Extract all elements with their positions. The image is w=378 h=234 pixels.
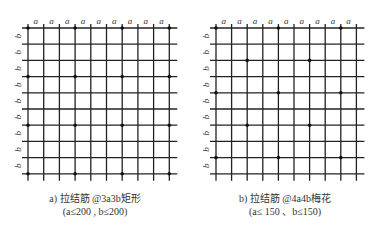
tie-bar-dot xyxy=(26,75,30,79)
tie-bar-dot xyxy=(26,172,30,176)
tie-bar-dot xyxy=(73,26,77,30)
tie-bar-dot xyxy=(277,26,281,30)
tie-bar-dot xyxy=(277,156,281,160)
caption-b-title: b) 拉结筋 @4a4b梅花 xyxy=(190,192,378,205)
tie-bar-dot xyxy=(339,91,343,95)
tie-bar-dot xyxy=(73,75,77,79)
tie-bar-dot xyxy=(308,59,312,63)
spacing-label-b: b xyxy=(201,33,211,38)
spacing-label-a: a xyxy=(315,16,320,26)
tie-bar-dot xyxy=(168,26,172,30)
spacing-label-a: a xyxy=(159,16,164,26)
spacing-label-b: b xyxy=(201,163,211,168)
spacing-label-a: a xyxy=(253,16,258,26)
caption-b-constraint: (a≤ 150 、b≤150) xyxy=(190,205,378,218)
spacing-label-a: a xyxy=(49,16,54,26)
spacing-label-b: b xyxy=(201,66,211,71)
spacing-label-a: a xyxy=(222,16,227,26)
caption-a: a) 拉结筋 @3a3b矩形 (a≤200 , b≤200) xyxy=(0,192,190,218)
tie-bar-dot xyxy=(120,26,124,30)
caption-a-constraint: (a≤200 , b≤200) xyxy=(0,205,190,218)
spacing-label-b: b xyxy=(13,98,23,103)
spacing-label-b: b xyxy=(13,114,23,119)
tie-bar-dot xyxy=(120,172,124,176)
spacing-label-a: a xyxy=(346,16,351,26)
tie-bar-dot xyxy=(73,172,77,176)
spacing-label-b: b xyxy=(13,82,23,87)
spacing-label-b: b xyxy=(201,82,211,87)
spacing-label-b: b xyxy=(13,50,23,55)
tie-bar-dot xyxy=(214,26,218,30)
caption-a-title: a) 拉结筋 @3a3b矩形 xyxy=(0,192,190,205)
spacing-label-a: a xyxy=(128,16,133,26)
tie-bar-dot xyxy=(339,156,343,160)
tie-bar-dot xyxy=(214,156,218,160)
spacing-label-b: b xyxy=(201,147,211,152)
tie-bar-dot xyxy=(26,123,30,127)
spacing-label-b: b xyxy=(201,50,211,55)
spacing-label-a: a xyxy=(331,16,336,26)
spacing-label-a: a xyxy=(65,16,70,26)
spacing-label-a: a xyxy=(112,16,117,26)
tie-bar-dot xyxy=(245,123,249,127)
spacing-label-a: a xyxy=(96,16,101,26)
grid-b: aaaaaaaaabbbbbbbbb xyxy=(201,16,364,181)
spacing-label-b: b xyxy=(13,147,23,152)
spacing-label-a: a xyxy=(144,16,149,26)
spacing-label-a: a xyxy=(268,16,273,26)
tie-bar-dot xyxy=(245,59,249,63)
tie-bar-dot xyxy=(168,123,172,127)
spacing-label-a: a xyxy=(81,16,86,26)
spacing-label-b: b xyxy=(201,131,211,136)
tie-bar-dot xyxy=(339,26,343,30)
spacing-label-b: b xyxy=(201,98,211,103)
spacing-label-a: a xyxy=(300,16,305,26)
spacing-label-b: b xyxy=(201,114,211,119)
grid-a: aaaaaaaaabbbbbbbbb xyxy=(13,16,177,181)
tie-bar-dot xyxy=(26,26,30,30)
spacing-label-a: a xyxy=(237,16,242,26)
tie-bar-dot xyxy=(277,91,281,95)
tie-bar-dot xyxy=(168,172,172,176)
tie-bar-dot xyxy=(308,123,312,127)
tie-bar-dot xyxy=(73,123,77,127)
tie-bar-dot xyxy=(168,75,172,79)
tie-bar-dot xyxy=(120,75,124,79)
spacing-label-b: b xyxy=(13,131,23,136)
spacing-label-a: a xyxy=(34,16,39,26)
spacing-label-b: b xyxy=(13,33,23,38)
spacing-label-a: a xyxy=(284,16,289,26)
tie-bar-dot xyxy=(214,91,218,95)
tie-bar-dot xyxy=(120,123,124,127)
spacing-label-b: b xyxy=(13,163,23,168)
caption-b: b) 拉结筋 @4a4b梅花 (a≤ 150 、b≤150) xyxy=(190,192,378,218)
spacing-label-b: b xyxy=(13,66,23,71)
